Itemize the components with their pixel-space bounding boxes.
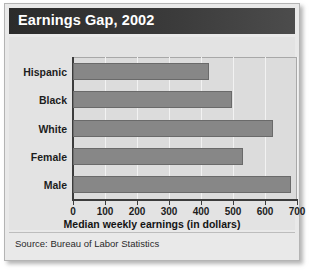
chart-title-bar: Earnings Gap, 2002 (9, 8, 295, 34)
page-title: Earnings Gap, 2002 (18, 12, 154, 28)
x-tick (105, 200, 106, 205)
x-tick (73, 200, 74, 205)
source-divider (9, 232, 295, 233)
category-label-hispanic: Hispanic (7, 66, 67, 78)
x-tick (201, 200, 202, 205)
bar-row (73, 148, 297, 165)
x-tick (137, 200, 138, 205)
bar-female (73, 148, 243, 165)
bar-black (73, 91, 232, 108)
x-axis-title: Median weekly earnings (in dollars) (9, 218, 295, 230)
category-label-male: Male (7, 179, 67, 191)
x-tick-label: 700 (277, 206, 310, 217)
bar-row (73, 176, 297, 193)
category-label-female: Female (7, 151, 67, 163)
bar-row (73, 120, 297, 137)
category-label-white: White (7, 123, 67, 135)
bar-white (73, 120, 273, 137)
bar-row (73, 63, 297, 80)
category-label-black: Black (7, 94, 67, 106)
source-note: Source: Bureau of Labor Statistics (15, 238, 159, 249)
x-tick (169, 200, 170, 205)
x-tick (233, 200, 234, 205)
bar-row (73, 91, 297, 108)
bar-male (73, 176, 291, 193)
chart-figure: Earnings Gap, 2002 HispanicBlackWhiteFem… (4, 3, 300, 261)
bar-hispanic (73, 63, 209, 80)
gridline (297, 57, 298, 199)
plot-panel: HispanicBlackWhiteFemaleMale 01002003004… (9, 37, 295, 230)
x-tick (265, 200, 266, 205)
x-tick (297, 200, 298, 205)
